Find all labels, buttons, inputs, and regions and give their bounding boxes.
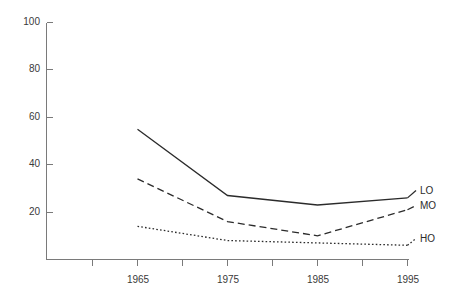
y-axis-ticks — [47, 23, 53, 213]
y-tick-label-20: 20 — [14, 207, 40, 217]
chart-container: 100 80 60 40 20 1965 1975 1985 1995 LO M… — [0, 0, 457, 297]
x-tick-label-1985: 1985 — [298, 275, 338, 285]
legend-marker-group — [408, 191, 417, 246]
x-tick-label-1995: 1995 — [388, 275, 428, 285]
legend-connector-ho — [408, 239, 417, 246]
x-axis-ticks — [93, 260, 408, 266]
series-line-lo — [138, 129, 408, 205]
data-series-group — [138, 129, 408, 245]
legend-label-ho: HO — [420, 234, 435, 244]
x-tick-label-1965: 1965 — [118, 275, 158, 285]
legend-connector-lo — [408, 191, 417, 198]
y-tick-label-40: 40 — [14, 159, 40, 169]
x-tick-label-1975: 1975 — [208, 275, 248, 285]
legend-connector-mo — [408, 206, 417, 210]
y-tick-label-100: 100 — [14, 17, 40, 27]
legend-label-lo: LO — [420, 186, 433, 196]
y-tick-label-60: 60 — [14, 112, 40, 122]
y-tick-label-80: 80 — [14, 64, 40, 74]
legend-label-mo: MO — [420, 201, 436, 211]
series-line-mo — [138, 179, 408, 236]
chart-plot-area — [0, 0, 457, 297]
